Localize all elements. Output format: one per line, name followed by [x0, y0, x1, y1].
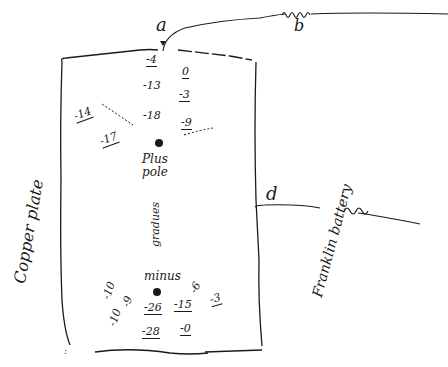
minus-pole-dot: [153, 288, 161, 296]
equipotential-line-left: [102, 104, 133, 125]
plate-right-edge: [255, 62, 262, 346]
gradient-label: gradues: [150, 202, 161, 247]
reading: -26: [144, 302, 162, 315]
plate-left-edge: [61, 62, 70, 345]
plate-top-edge-right: [178, 50, 252, 60]
minus-pole-label: minus: [144, 270, 181, 282]
plate-bottom-edge-left: [95, 350, 208, 354]
reading: -3: [179, 89, 190, 102]
reading: 0: [182, 66, 189, 79]
copper-plate-sketch: [0, 0, 448, 367]
plate-bottom-edge-right: [205, 350, 262, 352]
reading: -9: [181, 117, 192, 130]
plus-pole-dot: [155, 139, 163, 147]
reading: -28: [142, 326, 160, 339]
corner-mark: :: [64, 347, 67, 356]
reading: -13: [143, 80, 161, 91]
reading: -4: [146, 54, 157, 67]
plus-pole-label: Plus pole: [142, 153, 176, 179]
reading: -18: [143, 110, 161, 121]
wire-right-far: [358, 213, 420, 224]
wire-top-right: [311, 13, 448, 14]
wire-top: [163, 14, 285, 51]
terminal-a-label: a: [156, 16, 167, 34]
reading: -15: [174, 299, 192, 312]
reading: -0: [180, 323, 191, 336]
wire-right: [255, 205, 320, 208]
terminal-d-label: d: [266, 185, 278, 203]
plate-top-edge-left: [62, 50, 159, 63]
coil-b-label: b: [294, 18, 304, 34]
